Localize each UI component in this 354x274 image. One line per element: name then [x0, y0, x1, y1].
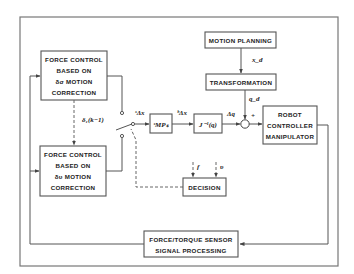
v-label: υ: [220, 163, 224, 171]
decision-block: DECISION: [183, 178, 226, 196]
force-control-upsilon-line2: BASED ON: [55, 162, 90, 169]
plus-sign: +: [251, 112, 255, 120]
robot-label-line3: MANIPULATOR: [266, 133, 315, 140]
force-control-sigma-line4: CORRECTION: [52, 89, 97, 96]
transformation-block: TRANSFORMATION: [206, 74, 276, 90]
motion-planning-block: MOTION PLANNING: [205, 32, 276, 48]
delta-q-label: Δq: [226, 110, 235, 118]
sigma-output-line: [107, 76, 122, 111]
force-control-upsilon-line4: CORRECTION: [51, 184, 96, 191]
decision-control-link: [131, 129, 183, 187]
decision-label: DECISION: [188, 184, 221, 191]
sensor-processing-block: FORCE/TORQUE SENSOR SIGNAL PROCESSING: [144, 231, 238, 257]
control-block-diagram: FORCE CONTROL BASED ON δσ MOTION CORRECT…: [0, 0, 354, 274]
upsilon-output-line: [106, 138, 122, 171]
jacobian-inverse-label: J⁻¹(q): [198, 121, 217, 129]
force-control-upsilon-block: FORCE CONTROL BASED ON δυ MOTION CORRECT…: [40, 146, 106, 196]
switch-terminal-top: [120, 111, 123, 114]
robot-controller-block: ROBOT CONTROLLER MANIPULATOR: [263, 106, 317, 144]
force-control-sigma-line3: δσ MOTION: [55, 78, 92, 85]
transformation-label: TRANSFORMATION: [210, 79, 273, 86]
sensor-label-line2: SIGNAL PROCESSING: [155, 247, 226, 254]
b-delta-x-label: ᵇΔx: [177, 109, 187, 117]
switch-terminal-bottom: [120, 134, 123, 137]
force-control-sigma-block: FORCE CONTROL BASED ON δσ MOTION CORRECT…: [41, 51, 107, 100]
robot-label-line1: ROBOT: [278, 111, 302, 118]
switch-pivot: [131, 122, 134, 125]
force-control-sigma-line1: FORCE CONTROL: [45, 56, 103, 63]
q-d-label: q_d: [249, 95, 260, 103]
force-control-upsilon-line3: δυ MOTION: [55, 173, 92, 180]
switch-arm: [116, 124, 132, 130]
force-control-upsilon-line1: FORCE CONTROL: [44, 151, 102, 158]
mps-label: ˢMPₛ: [153, 121, 168, 129]
motion-planning-label: MOTION PLANNING: [209, 37, 272, 44]
x-d-label: x_d: [251, 56, 263, 64]
summing-junction: [241, 120, 249, 128]
sensor-label-line1: FORCE/TORQUE SENSOR: [149, 236, 233, 243]
robot-label-line2: CONTROLLER: [267, 122, 313, 129]
delta-prev-label: δ₁(k−1): [82, 116, 104, 124]
mps-block: ˢMPₛ: [150, 114, 172, 133]
jacobian-inverse-block: J⁻¹(q): [194, 114, 222, 133]
f-label: f: [197, 163, 200, 171]
force-control-sigma-line2: BASED ON: [56, 67, 91, 74]
s-delta-x-label: ˢΔx: [135, 109, 145, 117]
